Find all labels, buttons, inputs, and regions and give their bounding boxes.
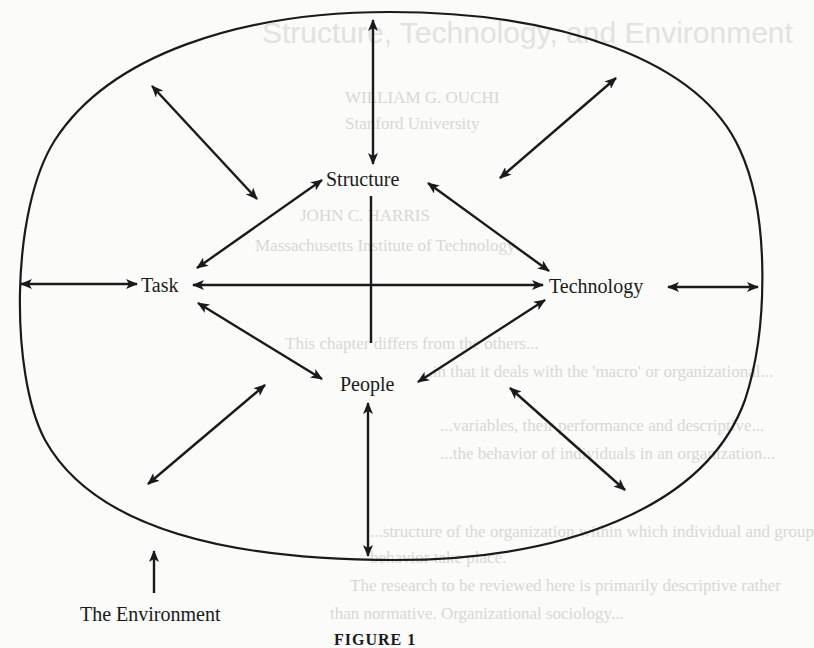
arrow-structure-technology: [428, 183, 549, 271]
arrow-task-structure: [197, 180, 322, 268]
arrow-lower-right-environment: [510, 388, 625, 490]
arrow-upper-left-environment: [152, 86, 257, 199]
arrow-task-people: [198, 303, 322, 379]
figure-caption: FIGURE 1: [334, 632, 416, 648]
arrow-upper-right-environment: [500, 78, 616, 178]
node-people-label: People: [340, 374, 394, 394]
node-task-label: Task: [141, 275, 178, 295]
node-technology-label: Technology: [549, 276, 643, 296]
arrow-lower-left-environment: [148, 385, 265, 484]
node-structure-label: Structure: [326, 169, 399, 189]
environment-label: The Environment: [80, 604, 221, 624]
arrow-people-technology: [418, 300, 545, 382]
